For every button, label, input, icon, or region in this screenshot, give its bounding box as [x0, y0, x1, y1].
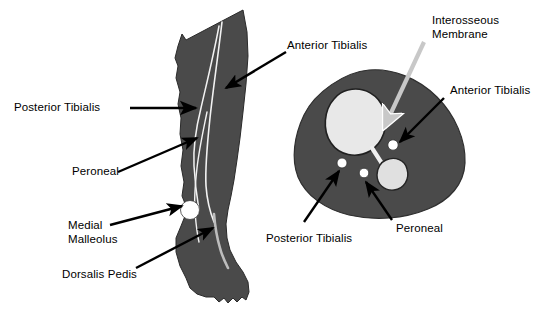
- anatomy-figure: Posterior Tibialis Peroneal Medial Malle…: [0, 0, 551, 326]
- label-leg-medial-malleolus-line1: Medial: [68, 219, 102, 233]
- label-xsec-anterior-tibialis: Anterior Tibialis: [450, 84, 530, 98]
- anterior-tibialis-vessel-dot: [388, 140, 398, 150]
- label-leg-posterior-tibialis: Posterior Tibialis: [14, 101, 100, 115]
- arrow-leg-medial-malleolus: [110, 206, 182, 225]
- cross-section-outline: [294, 70, 465, 219]
- label-xsec-interosseous-line2: Membrane: [432, 28, 488, 42]
- leg-silhouette-shape: [175, 10, 249, 303]
- label-leg-medial-malleolus-line2: Malleolus: [68, 233, 117, 247]
- tibia-bone: [325, 89, 386, 155]
- peroneal-vessel-dot: [359, 168, 369, 178]
- fibula-bone: [377, 158, 408, 190]
- label-leg-dorsalis-pedis: Dorsalis Pedis: [62, 268, 137, 282]
- cross-section-group: [294, 70, 465, 219]
- label-xsec-peroneal: Peroneal: [396, 222, 443, 236]
- label-xsec-interosseous-line1: Interosseous: [432, 14, 499, 28]
- label-leg-peroneal: Peroneal: [72, 165, 119, 179]
- leg-silhouette-group: [175, 10, 249, 303]
- medial-malleolus-marker: [181, 201, 200, 220]
- label-xsec-posterior-tibialis: Posterior Tibialis: [266, 232, 352, 246]
- posterior-tibialis-vessel-dot: [337, 158, 347, 168]
- label-leg-anterior-tibialis: Anterior Tibialis: [287, 39, 367, 53]
